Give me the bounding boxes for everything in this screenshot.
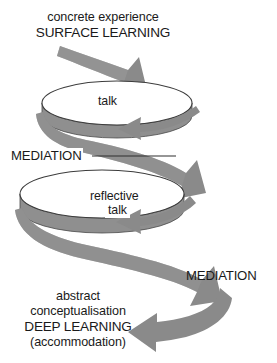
deep-learning-label: abstract conceptualisation DEEP LEARNING… xyxy=(8,289,148,350)
diagram-text-layer: concrete experience SURFACE LEARNING tal… xyxy=(0,0,277,363)
mediation-label-lower: MEDIATION xyxy=(186,268,257,284)
abstract-text: abstract xyxy=(8,289,148,304)
talk-label-lower: talk xyxy=(105,203,130,218)
concrete-experience-text: concrete experience xyxy=(28,10,178,25)
conceptualisation-text: conceptualisation xyxy=(8,304,148,319)
reflective-label: reflective xyxy=(88,189,141,204)
talk-label-upper: talk xyxy=(96,94,119,109)
accommodation-text: (accommodation) xyxy=(8,335,148,350)
deep-learning-text: DEEP LEARNING xyxy=(8,319,148,335)
surface-learning-text: SURFACE LEARNING xyxy=(28,25,178,41)
surface-learning-label: concrete experience SURFACE LEARNING xyxy=(28,10,178,41)
mediation-label-upper: MEDIATION xyxy=(10,148,83,164)
